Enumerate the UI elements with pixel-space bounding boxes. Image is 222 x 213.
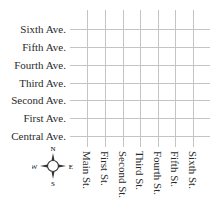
avenue-label: First Ave. xyxy=(23,112,66,124)
avenue-label: Sixth Ave. xyxy=(20,23,66,35)
compass-north: N xyxy=(50,145,55,153)
street-line xyxy=(105,10,106,147)
avenue-label: Fifth Ave. xyxy=(22,41,66,53)
avenue-label: Second Ave. xyxy=(11,94,66,106)
street-label: First St. xyxy=(99,151,111,186)
avenue-label: Fourth Ave. xyxy=(14,59,66,71)
street-line xyxy=(123,10,124,147)
avenue-label: Central Ave. xyxy=(11,130,66,142)
street-label: Third St. xyxy=(134,151,146,190)
street-line xyxy=(87,10,88,147)
compass-south: S xyxy=(51,180,55,187)
street-label: Second St. xyxy=(117,151,129,198)
street-grid-diagram: Sixth Ave.Fifth Ave.Fourth Ave.Third Ave… xyxy=(0,0,222,213)
street-label: Fourth St. xyxy=(152,151,164,195)
street-line xyxy=(193,10,194,147)
street-line xyxy=(158,10,159,147)
compass-rose-icon: N S W E xyxy=(32,145,74,187)
street-label: Fifth St. xyxy=(169,151,181,187)
street-line xyxy=(140,10,141,147)
street-label: Main St. xyxy=(81,151,93,189)
compass-east: E xyxy=(69,163,73,171)
street-label: Sixth St. xyxy=(187,151,199,189)
street-line xyxy=(175,10,176,147)
avenue-label: Third Ave. xyxy=(19,77,66,89)
compass-west: W xyxy=(32,163,38,171)
